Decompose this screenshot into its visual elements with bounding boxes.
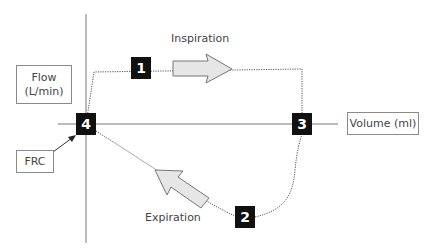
point-marker-1: 1 [131, 57, 151, 79]
frc-pointer-line [53, 138, 72, 152]
flow-axis-label: Flow (L/min) [16, 65, 72, 104]
frc-pointer-arrowhead [68, 135, 76, 142]
flow-axis-label-line1: Flow [31, 71, 56, 85]
frc-label: FRC [16, 150, 54, 173]
point-marker-2: 2 [235, 206, 255, 228]
inspiration-arrow-icon [173, 54, 232, 83]
point-marker-4: 4 [76, 113, 96, 135]
expiration-label: Expiration [145, 211, 201, 224]
point-marker-3: 3 [292, 113, 312, 135]
expiration-arrow-icon [155, 170, 209, 208]
inspiration-label: Inspiration [171, 32, 229, 45]
flow-axis-label-line2: (L/min) [24, 85, 63, 99]
volume-axis-label: Volume (ml) [347, 112, 419, 135]
